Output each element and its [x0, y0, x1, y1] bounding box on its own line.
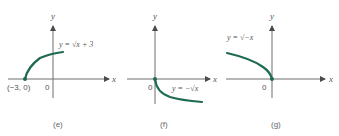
x-axis-label: x: [212, 74, 217, 84]
equation-label: y = √−x: [226, 33, 254, 42]
y-axis-label: y: [269, 11, 274, 21]
y-axis-label: y: [50, 11, 55, 21]
panel-f: y x y = −√x 0 (f): [127, 11, 217, 129]
panel-e: y x y = √x + 3 (−3, 0) 0 (e): [7, 11, 116, 129]
equation-label: y = √x + 3: [58, 40, 93, 49]
origin-point: [270, 77, 274, 81]
caption: (g): [271, 120, 281, 129]
caption: (e): [53, 120, 63, 129]
sqrt-x-plus-3-curve: [25, 52, 63, 79]
equation-label: y = −√x: [171, 84, 199, 93]
sqrt-negative-x-curve: [227, 53, 272, 79]
start-point: [23, 77, 27, 81]
point-label: (−3, 0): [7, 83, 31, 92]
caption: (f): [160, 120, 168, 129]
x-axis-label: x: [328, 74, 333, 84]
origin-label: 0: [45, 83, 50, 92]
y-axis-label: y: [152, 11, 157, 21]
panel-g: y x y = √−x 0 (g): [226, 11, 333, 129]
origin-label: 0: [148, 83, 153, 92]
origin-label: 0: [262, 83, 267, 92]
function-graphs-figure: y x y = √x + 3 (−3, 0) 0 (e) y x y = −√x…: [0, 0, 339, 136]
x-axis-label: x: [111, 74, 116, 84]
origin-point: [153, 77, 157, 81]
